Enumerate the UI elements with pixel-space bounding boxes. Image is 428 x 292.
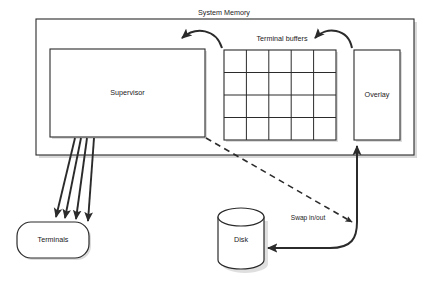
swap-in-out-label: Swap in/out <box>291 214 326 222</box>
system-memory-diagram: System Memory Supervisor Terminal buffer… <box>0 0 428 292</box>
terminals-label: Terminals <box>38 235 69 244</box>
diagram-canvas: System Memory Supervisor Terminal buffer… <box>0 0 428 292</box>
disk-node: Disk <box>218 208 268 273</box>
supervisor-label: Supervisor <box>110 88 145 97</box>
overlay-label: Overlay <box>365 90 390 99</box>
terminal-buffers-label: Terminal buffers <box>257 34 308 43</box>
terminal-buffers-node: Terminal buffers <box>224 34 338 142</box>
supervisor-node: Supervisor <box>50 49 207 139</box>
disk-top-ellipse <box>218 208 264 226</box>
overlay-node: Overlay <box>354 50 402 142</box>
swap-in-out-curve <box>268 146 357 248</box>
terminals-node: Terminals <box>17 222 91 260</box>
disk-label: Disk <box>234 235 248 244</box>
system-memory-label: System Memory <box>198 8 250 17</box>
